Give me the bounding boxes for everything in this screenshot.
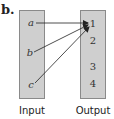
input-caption: Input bbox=[19, 105, 45, 116]
output-caption: Output bbox=[76, 105, 111, 116]
arrow-b-to-1 bbox=[34, 25, 88, 52]
arrow-c-to-1 bbox=[35, 27, 89, 83]
mapping-arrows bbox=[0, 0, 114, 119]
